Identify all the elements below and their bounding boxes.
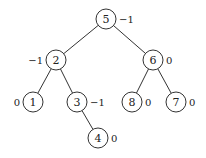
tree-node-6: 60 [143, 50, 172, 70]
node-value: 2 [53, 54, 60, 67]
edge-6-8 [136, 69, 148, 93]
node-value: 8 [129, 96, 136, 109]
balance-factor-label: 0 [14, 97, 20, 108]
balance-factor-label: 0 [111, 133, 117, 144]
balance-factor-label: −1 [90, 97, 105, 108]
node-value: 4 [95, 132, 102, 145]
balance-factor-label: 0 [189, 97, 195, 108]
tree-node-1: 10 [14, 92, 43, 112]
edge-2-3 [60, 69, 72, 93]
node-value: 5 [103, 13, 110, 26]
balance-factor-label: −1 [28, 55, 43, 66]
node-value: 1 [30, 96, 37, 109]
balance-factor-label: 0 [145, 97, 151, 108]
balance-factor-label: −1 [119, 14, 134, 25]
edge-6-7 [158, 69, 171, 93]
tree-node-7: 70 [166, 92, 195, 112]
edge-2-1 [38, 69, 51, 93]
edge-5-6 [114, 26, 146, 54]
tree-node-5: 5−1 [96, 9, 134, 29]
node-value: 6 [150, 54, 157, 67]
tree-node-8: 80 [122, 92, 151, 112]
binary-tree-diagram: 5−12−160103−1807040 [0, 0, 206, 158]
tree-nodes: 5−12−160103−1807040 [14, 9, 196, 148]
edge-5-2 [64, 25, 99, 53]
tree-node-3: 3−1 [67, 92, 105, 112]
balance-factor-label: 0 [166, 55, 172, 66]
tree-node-4: 40 [88, 128, 117, 148]
edge-3-4 [82, 111, 93, 130]
node-value: 7 [173, 96, 180, 109]
tree-node-2: 2−1 [28, 50, 66, 70]
tree-edges [38, 25, 171, 129]
node-value: 3 [74, 96, 81, 109]
